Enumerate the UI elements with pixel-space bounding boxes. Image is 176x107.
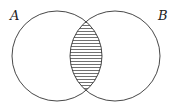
set-b-label: B — [157, 8, 168, 23]
set-a-label: A — [9, 8, 19, 23]
intersection-region — [70, 11, 160, 101]
venn-diagram: A B — [0, 0, 176, 107]
